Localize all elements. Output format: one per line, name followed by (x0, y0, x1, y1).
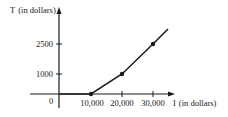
y-axis-variable: T (10, 5, 16, 15)
y-axis-label: T(in dollars) (10, 5, 56, 15)
y-tick-label-2500: 2500 (36, 39, 53, 49)
chart-svg: 1000 2500 0 10,000 20,000 30,000 T(in do… (0, 0, 228, 117)
x-axis-variable: I (173, 98, 176, 108)
tax-income-chart: 1000 2500 0 10,000 20,000 30,000 T(in do… (0, 0, 228, 117)
x-axis-label: I(in dollars) (173, 98, 217, 108)
y-axis-arrow-icon (57, 7, 62, 14)
point-20000-1000 (120, 72, 124, 76)
x-axis-arrow-icon (168, 92, 175, 97)
x-tick-label-30000: 30,000 (141, 98, 164, 108)
y-tick-label-1000: 1000 (36, 69, 53, 79)
point-30000-2500 (151, 42, 155, 46)
origin-label: 0 (49, 96, 53, 106)
point-10000-0 (89, 92, 93, 96)
y-axis-unit: (in dollars) (18, 5, 56, 15)
tax-line (59, 29, 168, 94)
x-axis-unit: (in dollars) (179, 98, 217, 108)
x-tick-label-10000: 10,000 (80, 98, 103, 108)
x-tick-label-20000: 20,000 (110, 98, 133, 108)
